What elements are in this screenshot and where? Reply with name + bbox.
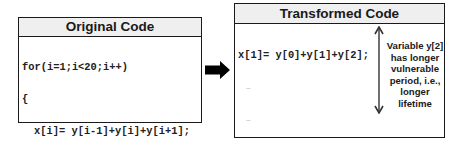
transformed-code-title: Transformed Code bbox=[235, 4, 444, 24]
lifetime-annotation: Variable y[2] has longer vulnerable peri… bbox=[385, 40, 445, 109]
right-arrow-icon bbox=[205, 61, 230, 79]
annotation-line: longer bbox=[385, 86, 445, 98]
original-code-listing: for(i=1;i<20;i++) { x[i]= y[i-1]+y[i]+y[… bbox=[19, 37, 201, 145]
annotation-line: vulnerable bbox=[385, 63, 445, 75]
double-headed-vertical-arrow-icon bbox=[374, 26, 384, 114]
annotation-line: Variable y[2] bbox=[385, 40, 445, 52]
code-line: { bbox=[22, 94, 201, 105]
annotation-line: has longer bbox=[385, 52, 445, 64]
original-code-title: Original Code bbox=[19, 18, 201, 37]
ellipsis-line: … bbox=[238, 113, 444, 124]
annotation-line: lifetime bbox=[385, 98, 445, 110]
code-line: for(i=1;i<20;i++) bbox=[22, 62, 201, 73]
annotation-line: period, i.e., bbox=[385, 75, 445, 87]
code-line: x[i]= y[i-1]+y[i]+y[i+1]; bbox=[22, 126, 201, 137]
original-code-box: Original Code for(i=1;i<20;i++) { x[i]= … bbox=[18, 17, 202, 123]
